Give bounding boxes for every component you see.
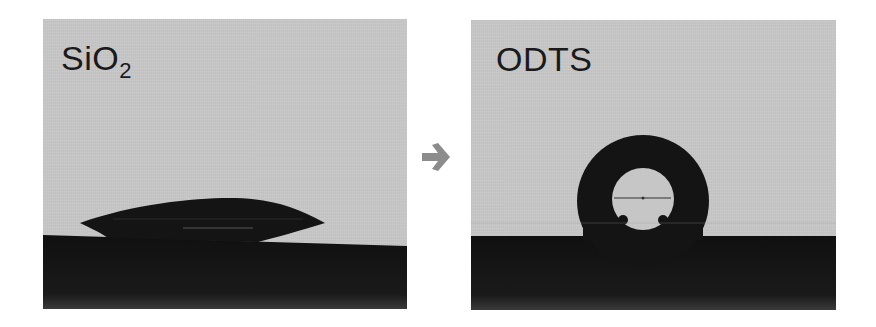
sio2-label: SiO2	[61, 41, 132, 82]
sio2-contact-angle-image: SiO2	[43, 19, 407, 309]
odts-contact-angle-image: ODTS	[471, 20, 836, 310]
odts-label: ODTS	[496, 42, 592, 76]
right-arrow-icon	[420, 140, 456, 174]
